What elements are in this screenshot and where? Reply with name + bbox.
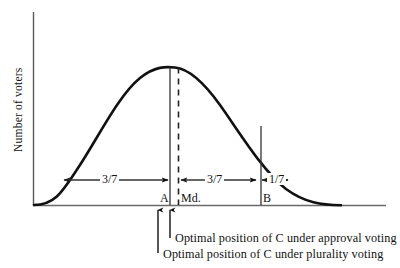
figure-canvas [0,0,400,268]
annotation-approval-voting: Optimal position of C under approval vot… [175,232,397,244]
y-axis-label: Number of voters [13,45,25,175]
point-label-b: B [263,192,271,204]
voter-density-curve [34,67,341,205]
interval-label-left: 3/7 [100,173,119,185]
interval-label-right: 1/7 [267,173,286,185]
point-label-median: Md. [181,192,201,204]
point-label-a: A [160,192,169,204]
annotation-plurality-voting: Optimal position of C under plurality vo… [163,248,383,260]
voter-distribution-figure: Number of voters 3/7 3/7 1/7 A Md. B Opt… [0,0,400,268]
interval-label-middle: 3/7 [205,173,224,185]
